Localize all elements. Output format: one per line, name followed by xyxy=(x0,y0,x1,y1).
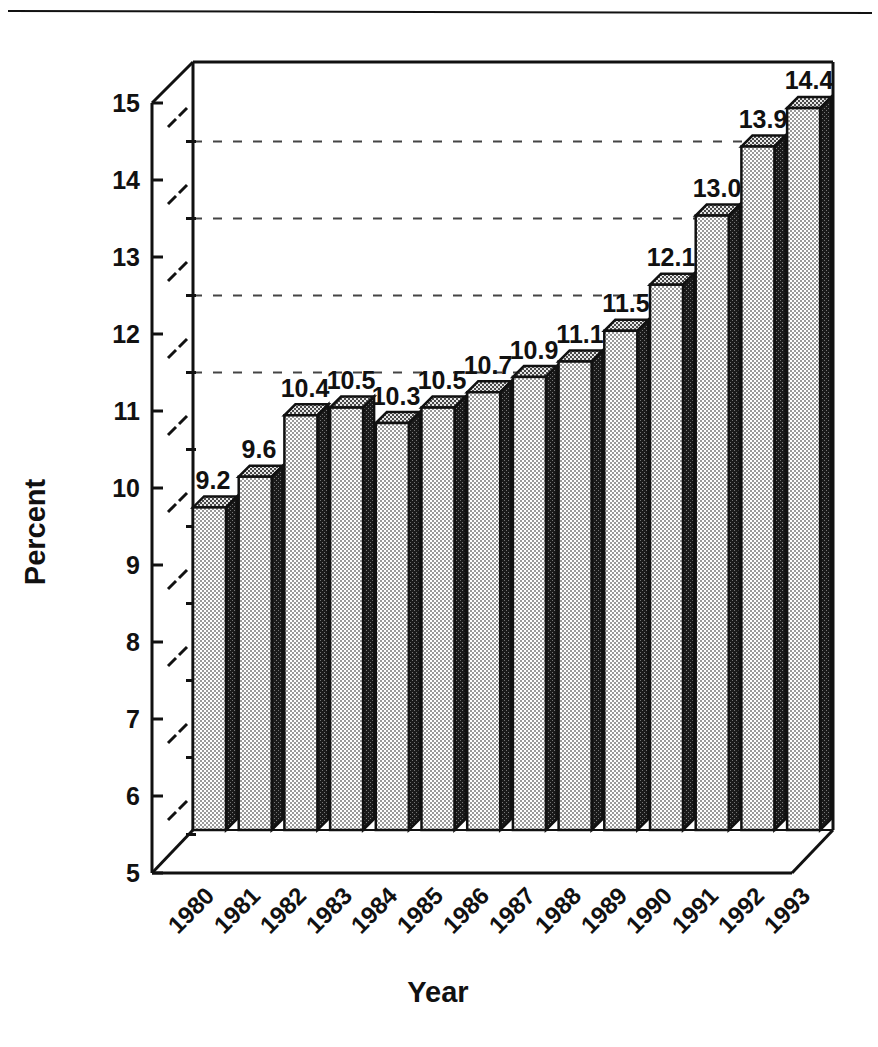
x-tick-label-1982: 1982 xyxy=(254,882,311,939)
bar-1987[interactable] xyxy=(513,366,557,830)
top-rule xyxy=(8,11,872,13)
bar-1993[interactable] xyxy=(787,97,831,830)
bar-1982[interactable] xyxy=(284,404,328,830)
x-tick-label-1980: 1980 xyxy=(162,882,219,939)
y-tick-label: 6 xyxy=(126,782,140,810)
x-tick-label-1988: 1988 xyxy=(529,882,586,939)
bars xyxy=(193,97,831,830)
value-label-1980: 9.2 xyxy=(196,466,231,494)
x-tick-label-1991: 1991 xyxy=(666,882,723,939)
x-tick-label-1985: 1985 xyxy=(391,882,448,939)
x-tick-label-1984: 1984 xyxy=(345,881,402,938)
y-tick-label: 10 xyxy=(112,474,140,502)
value-label-1992: 13.9 xyxy=(739,105,788,133)
x-axis-tick-labels: 1980 1981 1982 1983 1984 1985 1986 1987 … xyxy=(162,881,815,938)
value-label-1985: 10.5 xyxy=(418,366,467,394)
x-tick-label-1987: 1987 xyxy=(483,882,540,939)
y-tick-label: 15 xyxy=(112,89,140,117)
x-axis-title: Year xyxy=(407,976,468,1008)
value-label-1988: 11.1 xyxy=(556,320,603,348)
y-tick-label: 14 xyxy=(112,166,140,194)
bar-1986[interactable] xyxy=(467,381,511,830)
value-label-1987: 10.9 xyxy=(510,336,559,364)
chart-figure: 15 14 13 12 11 10 9 8 7 6 5 xyxy=(0,0,878,1047)
x-tick-label-1989: 1989 xyxy=(575,882,632,939)
bar-1989[interactable] xyxy=(604,320,648,830)
x-tick-label-1993: 1993 xyxy=(758,882,815,939)
y-tick-label: 12 xyxy=(112,320,140,348)
value-label-1981: 9.6 xyxy=(242,435,277,463)
x-tick-label-1990: 1990 xyxy=(620,882,677,939)
value-label-1986: 10.7 xyxy=(464,351,513,379)
x-tick-label-1986: 1986 xyxy=(437,882,494,939)
value-label-1993: 14.4 xyxy=(785,66,834,94)
x-tick-label-1992: 1992 xyxy=(712,882,769,939)
bar-1988[interactable] xyxy=(559,351,603,831)
value-label-1983: 10.5 xyxy=(327,366,376,394)
y-axis-depth-dashes xyxy=(168,108,187,820)
y-tick-label: 13 xyxy=(112,243,140,271)
bar-1992[interactable] xyxy=(741,136,785,831)
y-axis-major-ticks xyxy=(152,103,163,873)
value-label-1991: 13.0 xyxy=(693,174,742,202)
value-label-1990: 12.1 xyxy=(647,243,696,271)
y-tick-label: 9 xyxy=(126,551,140,579)
x-tick-label-1981: 1981 xyxy=(208,882,265,939)
y-axis-tick-labels: 15 14 13 12 11 10 9 8 7 6 5 xyxy=(112,89,140,887)
y-tick-label: 5 xyxy=(126,859,140,887)
bar-chart: 15 14 13 12 11 10 9 8 7 6 5 xyxy=(0,0,878,1047)
y-tick-label: 8 xyxy=(126,628,140,656)
x-tick-label-1983: 1983 xyxy=(300,882,357,939)
bar-1985[interactable] xyxy=(422,397,466,830)
value-label-1989: 11.5 xyxy=(602,289,649,317)
bar-1991[interactable] xyxy=(696,205,740,830)
bar-1990[interactable] xyxy=(650,274,694,830)
y-tick-label: 7 xyxy=(126,705,140,733)
bar-1983[interactable] xyxy=(330,397,374,830)
bar-1981[interactable] xyxy=(239,466,283,830)
bar-1980[interactable] xyxy=(193,496,237,830)
value-label-1982: 10.4 xyxy=(281,374,330,402)
value-label-1984: 10.3 xyxy=(372,382,421,410)
y-tick-label: 11 xyxy=(114,397,141,425)
y-axis-title: Percent xyxy=(19,478,51,585)
bar-1984[interactable] xyxy=(376,412,420,830)
